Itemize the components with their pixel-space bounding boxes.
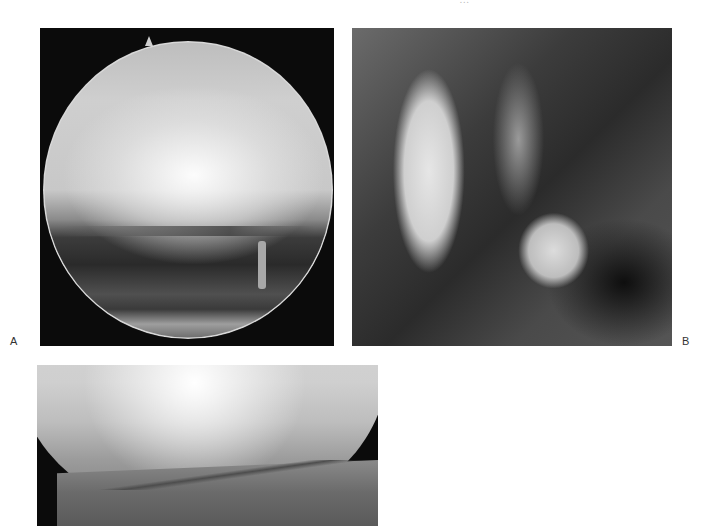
arthroscope-view [43, 41, 333, 339]
tissue-edge [77, 460, 378, 490]
scope-orientation-notch-icon [145, 36, 153, 46]
tissue-flap [258, 241, 266, 289]
panel-label-a: A [10, 335, 17, 347]
running-head: … [460, 0, 469, 5]
figure-panel-a-image [40, 28, 334, 346]
tissue-band [61, 226, 315, 236]
figure-panel-c-image [37, 365, 378, 526]
figure-panel-b-image [352, 28, 672, 346]
panel-label-b: B [682, 335, 689, 347]
